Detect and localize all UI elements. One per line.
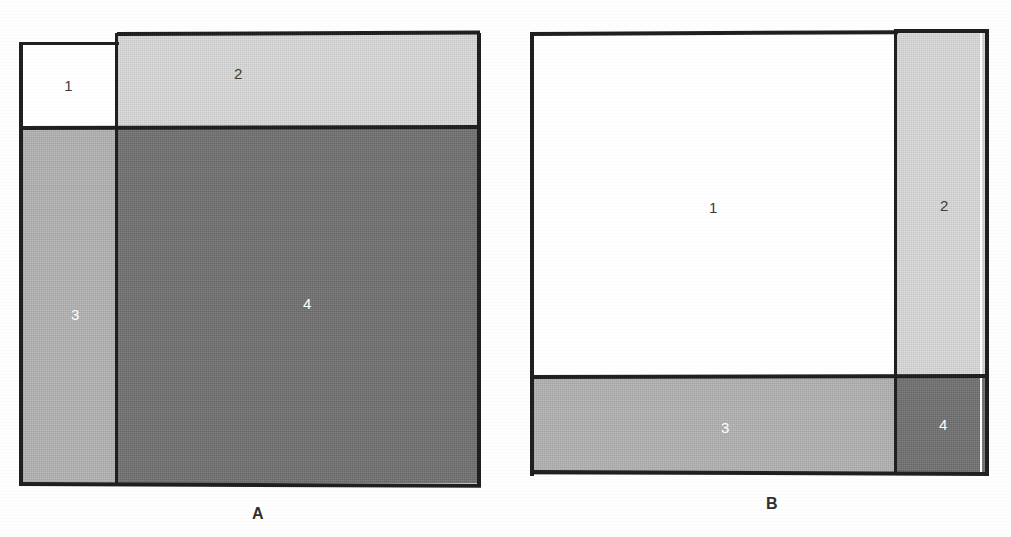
halftone-texture xyxy=(533,378,896,475)
panel-b-region-3: 3 xyxy=(533,378,896,475)
panel-a-region-4: 4 xyxy=(117,128,480,483)
panel-a-region-2-label: 2 xyxy=(234,66,243,81)
halftone-texture xyxy=(117,128,480,483)
panel-a-caption: A xyxy=(238,505,278,523)
panel-a-region-4-label: 4 xyxy=(303,296,312,311)
halftone-texture xyxy=(117,33,480,128)
panel-a-border-left xyxy=(19,42,23,486)
panel-a-divider-vertical xyxy=(115,33,118,485)
panel-a-region1-border-top xyxy=(19,42,119,45)
panel-b: 2 1 3 4 B xyxy=(505,0,1011,537)
panel-a-region-2: 2 xyxy=(117,33,480,128)
figure-root: 2 1 3 4 A xyxy=(0,0,1011,537)
panel-b-region-1-label: 1 xyxy=(709,200,718,215)
panel-a-border-right xyxy=(477,33,481,485)
panel-b-border-right xyxy=(985,29,989,474)
panel-b-region-1: 1 xyxy=(531,33,896,378)
panel-b-border-bottom xyxy=(530,470,989,476)
panel-b-region2-border-top xyxy=(896,29,988,33)
panel-a-border-bottom xyxy=(19,482,481,488)
panel-b-caption: B xyxy=(752,495,792,513)
panel-b-region-4-label: 4 xyxy=(939,417,948,432)
panel-b-region-2-label: 2 xyxy=(940,198,949,213)
halftone-texture xyxy=(20,128,117,483)
panel-a-region-3-label: 3 xyxy=(71,307,80,322)
panel-a-region-1-label: 1 xyxy=(64,78,73,93)
panel-b-divider-vertical xyxy=(894,29,897,474)
panel-a-region-1: 1 xyxy=(20,43,117,128)
panel-b-border-left xyxy=(530,32,534,476)
panel-b-region-2: 2 xyxy=(896,31,987,378)
panel-b-hairline xyxy=(980,31,982,473)
panel-a-region-3: 3 xyxy=(20,128,117,483)
panel-b-region-3-label: 3 xyxy=(721,420,730,435)
panel-a: 2 1 3 4 A xyxy=(0,0,505,537)
panel-b-region-4: 4 xyxy=(896,375,987,472)
